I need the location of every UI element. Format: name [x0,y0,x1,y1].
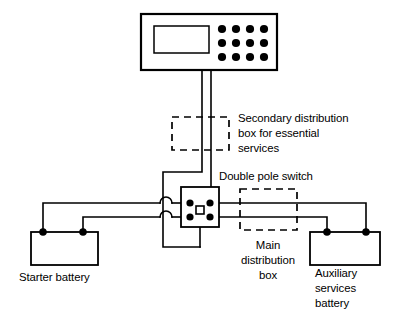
panel-button[interactable] [260,39,268,47]
auxiliary-services-battery-body[interactable] [310,232,380,265]
auxiliary-services-battery-label: Auxiliary services battery [315,267,358,309]
secondary-distribution-box-label: Secondary distribution box for essential… [238,112,349,154]
panel-button[interactable] [218,39,226,47]
auxiliary-services-battery-label-line1: Auxiliary [315,267,358,279]
panel-button[interactable] [232,25,240,33]
secondary-distribution-box-label-line3: services [238,142,279,154]
panel-button[interactable] [260,53,268,61]
auxiliary-battery-terminal[interactable] [362,228,370,236]
secondary-distribution-box-label-line1: Secondary distribution [238,112,349,124]
switch-terminal[interactable] [186,213,193,220]
panel-button[interactable] [232,53,240,61]
panel-button[interactable] [218,25,226,33]
schematic-svg: Secondary distribution box for essential… [0,0,397,325]
wire-starter-negative [83,217,160,232]
switch-actuator[interactable] [196,206,204,214]
panel-button[interactable] [218,53,226,61]
main-distribution-box-label-line1: Main [256,239,280,251]
wiring-diagram-canvas: Secondary distribution box for essential… [0,0,397,325]
panel-button[interactable] [246,53,254,61]
starter-battery-terminal[interactable] [79,228,87,236]
starter-battery-body[interactable] [31,232,98,265]
main-distribution-box [240,189,297,230]
auxiliary-services-battery-label-line2: services [315,282,356,294]
wire-hop-lower [160,211,172,217]
main-distribution-box-label: Main distribution box [241,239,295,281]
switch-terminal[interactable] [206,199,213,206]
control-panel[interactable] [141,14,277,70]
panel-button[interactable] [260,25,268,33]
auxiliary-services-battery[interactable] [310,228,380,265]
secondary-distribution-box [172,117,229,150]
main-distribution-box-label-line2: distribution [241,254,295,266]
switch-terminal[interactable] [186,199,193,206]
double-pole-switch-label: Double pole switch [219,170,313,182]
starter-battery-label: Starter battery [19,271,90,283]
auxiliary-battery-terminal[interactable] [323,228,331,236]
display-screen [154,26,209,53]
secondary-distribution-box-label-line2: box for essential [238,127,319,139]
panel-button[interactable] [246,25,254,33]
panel-button[interactable] [232,39,240,47]
starter-battery[interactable] [31,228,98,265]
auxiliary-services-battery-label-line3: battery [315,297,350,309]
wire-hop-upper [160,197,172,203]
starter-battery-terminal[interactable] [39,228,47,236]
main-distribution-box-label-line3: box [259,269,277,281]
panel-button[interactable] [246,39,254,47]
double-pole-switch[interactable] [181,187,219,227]
switch-terminal[interactable] [206,213,213,220]
